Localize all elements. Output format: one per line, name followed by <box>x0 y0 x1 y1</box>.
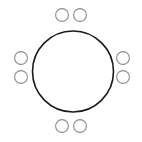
left-lower-satellite <box>15 71 28 84</box>
circle-diagram <box>0 0 142 142</box>
diagram-canvas <box>0 0 142 142</box>
top-left-satellite <box>56 9 69 22</box>
bottom-right-satellite <box>74 120 87 133</box>
right-upper-satellite <box>117 52 130 65</box>
left-upper-satellite <box>15 52 28 65</box>
right-lower-satellite <box>117 71 130 84</box>
bottom-left-satellite <box>56 120 69 133</box>
top-right-satellite <box>74 9 87 22</box>
